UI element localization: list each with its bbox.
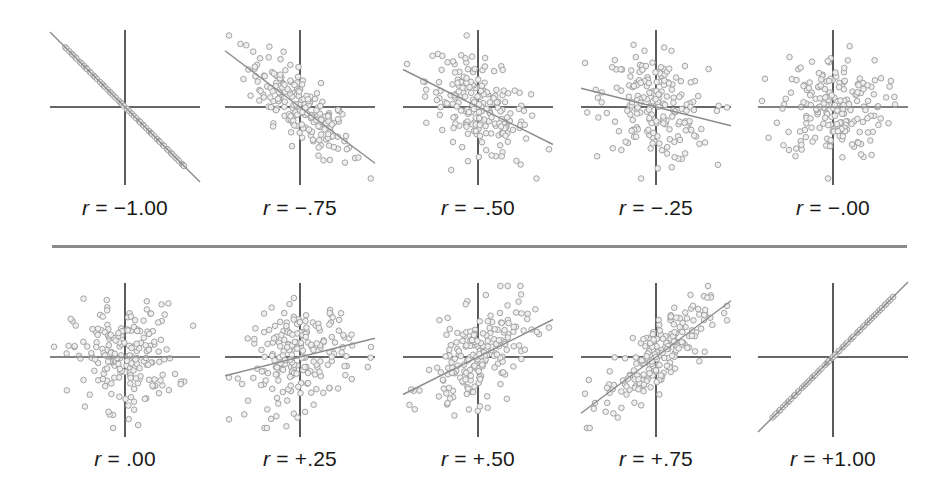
data-point	[239, 381, 245, 387]
data-point	[682, 151, 688, 157]
data-point	[611, 411, 617, 417]
data-point	[651, 337, 657, 343]
r-value: = −1.00	[89, 196, 168, 219]
data-point	[836, 84, 842, 90]
data-point	[807, 92, 813, 98]
data-point	[477, 133, 483, 139]
data-point	[341, 332, 347, 338]
data-point	[498, 381, 504, 387]
data-point	[511, 324, 517, 330]
data-point	[660, 336, 666, 342]
data-point	[268, 95, 274, 101]
data-point	[715, 162, 721, 168]
data-point	[159, 302, 165, 308]
data-point	[682, 310, 688, 316]
data-point	[630, 335, 636, 341]
data-point	[480, 331, 486, 337]
data-point	[327, 322, 333, 328]
data-point	[158, 337, 164, 343]
data-point	[100, 314, 106, 320]
data-point	[671, 100, 677, 106]
data-point	[327, 157, 333, 163]
data-point	[661, 355, 667, 361]
data-point	[485, 344, 491, 350]
data-point	[505, 283, 511, 289]
data-point	[106, 342, 112, 348]
data-point	[702, 307, 708, 313]
data-point	[500, 67, 506, 73]
data-point	[654, 79, 660, 85]
data-point	[833, 70, 839, 76]
data-point	[235, 376, 241, 382]
data-point	[447, 347, 453, 353]
data-point	[291, 317, 297, 323]
data-point	[634, 111, 640, 117]
data-point	[669, 164, 675, 170]
data-point	[242, 412, 248, 418]
data-point	[90, 326, 96, 332]
data-point	[492, 326, 498, 332]
data-point	[477, 319, 483, 325]
data-point	[447, 326, 453, 332]
data-point	[653, 96, 659, 102]
data-point	[502, 327, 508, 333]
data-point	[762, 76, 768, 82]
data-point	[465, 131, 471, 137]
data-point	[631, 42, 637, 48]
data-point	[632, 400, 638, 406]
data-point	[94, 344, 100, 350]
data-point	[657, 392, 663, 398]
data-point	[658, 373, 664, 379]
correlation-label: r = −.75	[263, 196, 337, 220]
data-point	[618, 88, 624, 94]
r-value: = +.75	[626, 447, 693, 470]
data-point	[834, 121, 840, 127]
data-point	[436, 394, 442, 400]
data-point	[265, 370, 271, 376]
data-point	[316, 325, 322, 331]
data-point	[653, 69, 659, 75]
data-point	[325, 131, 331, 137]
data-point	[288, 383, 294, 389]
r-value: = +1.00	[797, 447, 876, 470]
data-point	[172, 371, 178, 377]
data-point	[475, 94, 481, 100]
data-point	[73, 323, 79, 329]
data-point	[299, 135, 305, 141]
data-point	[466, 109, 472, 115]
data-point	[308, 390, 314, 396]
data-point	[270, 89, 276, 95]
data-point	[303, 334, 309, 340]
row-separator	[52, 245, 907, 248]
data-point	[840, 133, 846, 139]
data-point	[584, 110, 590, 116]
data-point	[105, 359, 111, 365]
data-point	[479, 139, 485, 145]
data-point	[266, 55, 272, 61]
data-point	[274, 365, 280, 371]
data-point	[672, 329, 678, 335]
data-point	[669, 87, 675, 93]
data-point	[684, 316, 690, 322]
data-point	[689, 333, 695, 339]
data-point	[650, 331, 656, 337]
data-point	[162, 312, 168, 318]
data-point	[443, 354, 449, 360]
data-point	[472, 66, 478, 72]
data-point	[658, 64, 664, 70]
data-point	[671, 322, 677, 328]
correlation-label: r = −.25	[619, 196, 693, 220]
data-point	[343, 372, 349, 378]
data-point	[259, 369, 265, 375]
data-point	[316, 153, 322, 159]
data-point	[253, 326, 259, 332]
data-point	[511, 343, 517, 349]
data-point	[646, 127, 652, 133]
data-point	[437, 317, 443, 323]
data-point	[64, 388, 70, 394]
data-point	[100, 376, 106, 382]
data-point	[586, 377, 592, 383]
data-point	[462, 94, 468, 100]
data-point	[142, 396, 148, 402]
data-point	[691, 133, 697, 139]
